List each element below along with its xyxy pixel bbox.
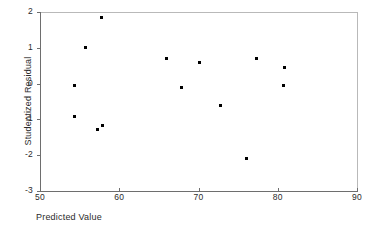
data-point	[282, 84, 285, 87]
x-tick-label: 90	[342, 193, 372, 202]
data-point	[283, 66, 286, 69]
data-point	[73, 115, 76, 118]
x-axis-title: Predicted Value	[36, 212, 102, 222]
data-point	[198, 61, 201, 64]
x-tick-label: 70	[184, 193, 214, 202]
y-tick-label: 2	[3, 7, 33, 16]
data-point	[101, 124, 104, 127]
x-tick-label: 60	[104, 193, 134, 202]
data-point	[84, 46, 87, 49]
data-point	[100, 16, 103, 19]
data-point	[73, 84, 76, 87]
plot-frame-right	[357, 12, 358, 192]
data-point	[180, 86, 183, 89]
data-point	[245, 157, 248, 160]
scatter-plot-figure: 210-1-2-3 5060708090 Studentized Residua…	[0, 0, 372, 236]
y-axis-title: Studentized Residual	[23, 26, 33, 176]
data-point	[165, 57, 168, 60]
data-point	[255, 57, 258, 60]
x-tick-label: 80	[263, 193, 293, 202]
data-point	[96, 128, 99, 131]
x-tick-label: 50	[25, 193, 55, 202]
data-point	[219, 104, 222, 107]
plot-area	[40, 12, 357, 191]
